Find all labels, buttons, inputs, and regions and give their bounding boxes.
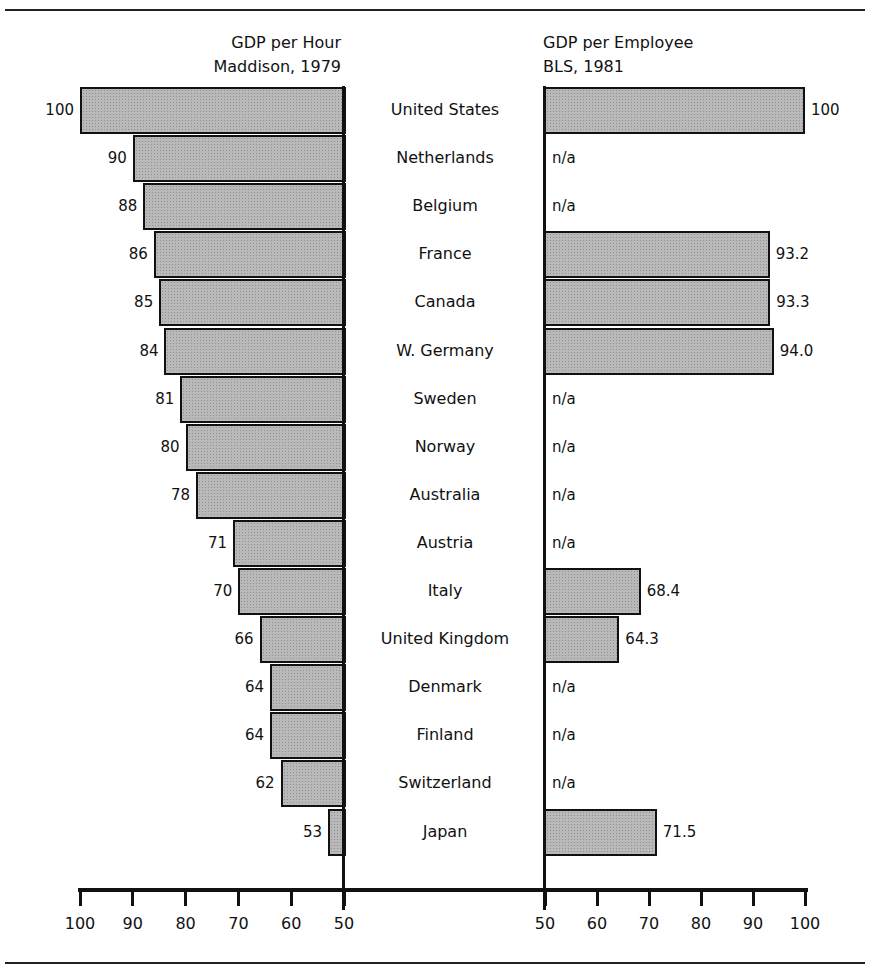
country-label: France xyxy=(345,244,545,264)
left-bar xyxy=(270,712,346,759)
left-title-line1: GDP per Hour xyxy=(213,31,341,55)
left-axis-tick xyxy=(343,890,346,906)
right-bar-na: n/a xyxy=(552,533,576,553)
left-bar-value: 90 xyxy=(67,148,127,168)
right-axis-tick xyxy=(804,890,807,906)
right-bar-na: n/a xyxy=(552,725,576,745)
left-series-title: GDP per Hour Maddison, 1979 xyxy=(213,31,341,79)
left-bar xyxy=(233,520,346,567)
left-axis-tick-label: 70 xyxy=(228,914,248,933)
right-axis-tick-label: 80 xyxy=(691,914,711,933)
top-rule xyxy=(5,9,865,11)
left-bar xyxy=(133,135,346,182)
left-bar-value: 84 xyxy=(98,341,158,361)
right-axis-tick-label: 60 xyxy=(587,914,607,933)
left-bar xyxy=(80,87,346,134)
left-bar xyxy=(180,376,346,423)
right-bar xyxy=(544,231,770,278)
right-title-line1: GDP per Employee xyxy=(543,31,693,55)
left-axis-tick xyxy=(290,890,293,906)
left-bar-value: 64 xyxy=(204,677,264,697)
right-axis-tick xyxy=(700,890,703,906)
country-label: Denmark xyxy=(345,677,545,697)
right-bar-na: n/a xyxy=(552,677,576,697)
right-axis-tick-label: 50 xyxy=(535,914,555,933)
left-axis-tick-label: 50 xyxy=(334,914,354,933)
right-bar xyxy=(544,568,641,615)
right-bar-value: 64.3 xyxy=(625,629,658,649)
country-label: Netherlands xyxy=(345,148,545,168)
left-bar-value: 62 xyxy=(215,773,275,793)
right-axis-baseline xyxy=(543,86,546,910)
left-axis-baseline xyxy=(342,86,345,910)
left-bar xyxy=(281,760,346,807)
left-bar-value: 88 xyxy=(77,196,137,216)
right-bar xyxy=(544,279,770,326)
right-axis-tick-label: 100 xyxy=(790,914,821,933)
left-bar xyxy=(143,183,346,230)
left-bar xyxy=(154,231,346,278)
right-bar-na: n/a xyxy=(552,485,576,505)
right-bar-value: 71.5 xyxy=(663,822,696,842)
country-label: Switzerland xyxy=(345,773,545,793)
country-label: Norway xyxy=(345,437,545,457)
right-axis-tick-label: 90 xyxy=(743,914,763,933)
right-bar xyxy=(544,616,619,663)
left-bar-value: 66 xyxy=(194,629,254,649)
left-axis-tick xyxy=(79,890,82,906)
left-bar-value: 71 xyxy=(167,533,227,553)
left-bar-value: 70 xyxy=(172,581,232,601)
right-series-title: GDP per Employee BLS, 1981 xyxy=(543,31,693,79)
right-bar xyxy=(544,809,657,856)
country-label: Japan xyxy=(345,822,545,842)
right-bar-na: n/a xyxy=(552,389,576,409)
left-bar-value: 53 xyxy=(262,822,322,842)
right-bar-na: n/a xyxy=(552,148,576,168)
right-bar-na: n/a xyxy=(552,773,576,793)
x-axis-line xyxy=(78,888,808,892)
country-label: W. Germany xyxy=(345,341,545,361)
right-axis-tick-label: 70 xyxy=(639,914,659,933)
right-bar xyxy=(544,328,774,375)
right-bar-value: 68.4 xyxy=(647,581,680,601)
left-bar xyxy=(238,568,346,615)
left-bar xyxy=(196,472,346,519)
left-axis-tick-label: 80 xyxy=(175,914,195,933)
right-bar-value: 100 xyxy=(811,100,840,120)
right-bar xyxy=(544,87,805,134)
left-bar-value: 100 xyxy=(14,100,74,120)
right-axis-tick xyxy=(648,890,651,906)
country-label: Austria xyxy=(345,533,545,553)
left-axis-tick-label: 100 xyxy=(65,914,96,933)
right-axis-tick xyxy=(596,890,599,906)
country-label: Australia xyxy=(345,485,545,505)
right-axis-tick xyxy=(544,890,547,906)
left-bar xyxy=(159,279,346,326)
country-label: United States xyxy=(345,100,545,120)
left-bar xyxy=(270,664,346,711)
country-label: Finland xyxy=(345,725,545,745)
left-bar-value: 80 xyxy=(120,437,180,457)
right-title-line2: BLS, 1981 xyxy=(543,55,693,79)
country-label: Belgium xyxy=(345,196,545,216)
left-axis-tick-label: 90 xyxy=(123,914,143,933)
right-axis-tick xyxy=(752,890,755,906)
right-bar-value: 93.3 xyxy=(776,292,809,312)
left-bar-value: 81 xyxy=(114,389,174,409)
right-bar-value: 93.2 xyxy=(776,244,809,264)
left-axis-tick xyxy=(237,890,240,906)
country-label: United Kingdom xyxy=(345,629,545,649)
left-bar-value: 85 xyxy=(93,292,153,312)
left-bar-value: 78 xyxy=(130,485,190,505)
right-bar-na: n/a xyxy=(552,437,576,457)
left-bar xyxy=(164,328,346,375)
left-axis-tick xyxy=(184,890,187,906)
left-title-line2: Maddison, 1979 xyxy=(213,55,341,79)
left-axis-tick-label: 60 xyxy=(281,914,301,933)
right-bar-value: 94.0 xyxy=(780,341,813,361)
country-label: Italy xyxy=(345,581,545,601)
left-axis-tick xyxy=(131,890,134,906)
left-bar-value: 86 xyxy=(88,244,148,264)
country-label: Sweden xyxy=(345,389,545,409)
right-bar-na: n/a xyxy=(552,196,576,216)
